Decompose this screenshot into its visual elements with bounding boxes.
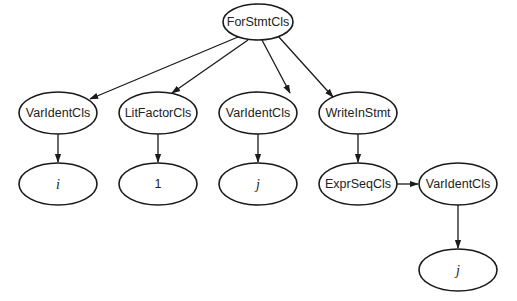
- edge-arrow-n0-n2: [172, 40, 248, 93]
- syntax-tree-diagram: ForStmtClsVarIdentClsLitFactorClsVarIden…: [0, 0, 517, 301]
- tree-node: VarIdentCls: [219, 92, 297, 134]
- tree-node: VarIdentCls: [19, 92, 97, 134]
- tree-node: LitFactorCls: [119, 92, 197, 134]
- node-label: ForStmtCls: [227, 15, 290, 29]
- tree-node: i: [19, 163, 97, 205]
- tree-node: ExprSeqCls: [319, 163, 397, 205]
- node-label: VarIdentCls: [426, 177, 490, 191]
- edge-arrow-n0-n1: [90, 37, 238, 99]
- tree-node: WriteInStmt: [319, 92, 397, 134]
- tree-node: 1: [119, 163, 197, 205]
- node-label: 1: [155, 177, 162, 191]
- tree-node: ForStmtCls: [223, 4, 293, 40]
- tree-node: j: [419, 249, 497, 291]
- edges: [58, 36, 458, 248]
- node-label: i: [56, 177, 60, 192]
- node-label: ExprSeqCls: [325, 177, 391, 191]
- node-label: VarIdentCls: [226, 106, 290, 120]
- node-label: LitFactorCls: [125, 106, 192, 120]
- node-label: WriteInStmt: [325, 106, 391, 120]
- edge-arrow-n0-n4: [278, 36, 333, 97]
- tree-node: VarIdentCls: [419, 163, 497, 205]
- edge-arrow-n0-n3: [262, 40, 290, 93]
- node-label: VarIdentCls: [26, 106, 90, 120]
- tree-node: j: [219, 163, 297, 205]
